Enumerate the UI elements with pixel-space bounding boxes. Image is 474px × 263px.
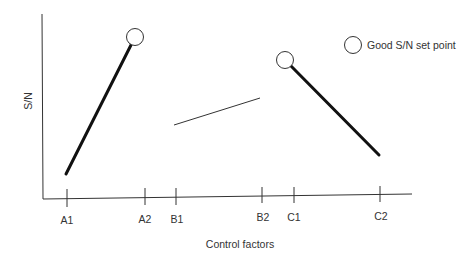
tick-label-c1: C1 bbox=[287, 211, 301, 223]
series-a-line bbox=[66, 45, 131, 174]
series-b-line bbox=[174, 98, 260, 125]
x-axis bbox=[43, 194, 412, 199]
series-c-line bbox=[291, 66, 379, 155]
legend-circle-icon bbox=[345, 37, 362, 54]
tick-label-b2: B2 bbox=[257, 211, 270, 223]
x-axis-title: Control factors bbox=[206, 238, 274, 250]
tick-label-b1: B1 bbox=[171, 213, 184, 225]
tick-label-c2: C2 bbox=[374, 210, 388, 222]
tick-label-a2: A2 bbox=[139, 213, 152, 225]
legend-label: Good S/N set point bbox=[367, 39, 456, 51]
good-set-point-c1-marker bbox=[277, 52, 294, 69]
chart-canvas: A1 A2 B1 B2 C1 C2 Control factors S/N Go… bbox=[0, 0, 474, 263]
y-axis-title: S/N bbox=[22, 92, 34, 110]
tick-label-a1: A1 bbox=[61, 214, 74, 226]
good-set-point-a2-marker bbox=[127, 29, 144, 46]
y-axis bbox=[42, 14, 43, 199]
legend: Good S/N set point bbox=[345, 37, 456, 54]
